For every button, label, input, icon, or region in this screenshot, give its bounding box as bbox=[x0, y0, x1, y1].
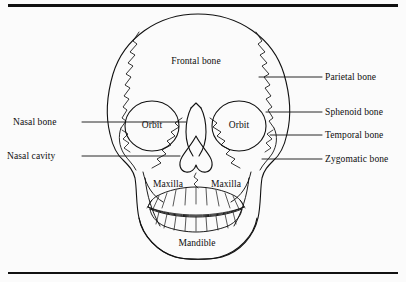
label-nasal-bone: Nasal bone bbox=[13, 118, 56, 128]
upper-teeth-dividers bbox=[147, 187, 245, 209]
right-temporal-plate bbox=[260, 128, 276, 170]
label-left-maxilla: Maxilla bbox=[153, 180, 183, 190]
label-left-orbit: Orbit bbox=[142, 121, 163, 131]
right-coronal-suture bbox=[256, 32, 274, 128]
label-sphenoid-bone: Sphenoid bone bbox=[325, 108, 383, 118]
upper-teeth-gumline bbox=[148, 207, 244, 215]
right-sphenoid-suture bbox=[265, 130, 273, 152]
label-frontal-bone: Frontal bone bbox=[171, 57, 220, 67]
nasal-bone-apex bbox=[191, 103, 201, 108]
skull-diagram-figure: Parietal bone Sphenoid bone Temporal bon… bbox=[0, 0, 406, 282]
label-nasal-cavity: Nasal cavity bbox=[7, 152, 55, 162]
label-mandible: Mandible bbox=[178, 239, 215, 249]
label-right-maxilla: Maxilla bbox=[211, 180, 241, 190]
label-right-orbit: Orbit bbox=[229, 121, 250, 131]
cranium-outline bbox=[107, 14, 289, 259]
nasal-cavity bbox=[180, 136, 212, 172]
label-zygomatic-bone: Zygomatic bone bbox=[325, 155, 388, 165]
left-coronal-suture bbox=[121, 32, 139, 128]
label-parietal-bone: Parietal bone bbox=[325, 73, 376, 83]
vomer-midline bbox=[194, 173, 198, 188]
label-temporal-bone: Temporal bone bbox=[325, 131, 383, 141]
